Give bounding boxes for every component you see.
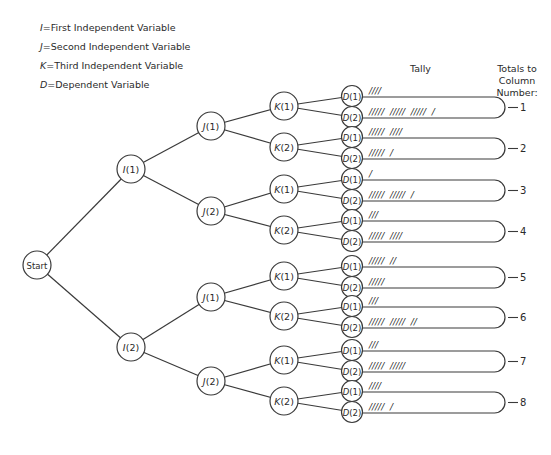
node-d: D(1) xyxy=(342,86,363,107)
tree-diagram: 1///////// ///// ///// /2///// /////////… xyxy=(0,0,551,455)
svg-text:K(1): K(1) xyxy=(274,101,294,112)
tally-d2: ///// ///// / xyxy=(368,190,415,200)
node-j: J(2) xyxy=(197,367,225,395)
tally-d2: ///// ///// // xyxy=(368,317,418,327)
svg-text:K(1): K(1) xyxy=(274,184,294,195)
node-k: K(2) xyxy=(270,216,298,244)
svg-text:K(1): K(1) xyxy=(274,355,294,366)
svg-text:D(1): D(1) xyxy=(343,133,362,143)
node-k: K(2) xyxy=(270,302,298,330)
tally-loop-7: 7//////// ///// xyxy=(362,340,526,372)
column-number: 6 xyxy=(520,312,526,323)
tally-d2: ///// ///// xyxy=(368,361,406,371)
svg-text:D(1): D(1) xyxy=(343,302,362,312)
svg-text:D(2): D(2) xyxy=(343,323,362,333)
svg-text:K(2): K(2) xyxy=(274,225,294,236)
tally-loop-2: 2///// ///////// / xyxy=(362,127,526,159)
node-j: J(1) xyxy=(197,283,225,311)
svg-text:D(1): D(1) xyxy=(343,346,362,356)
tally-d1: /// xyxy=(368,210,379,220)
svg-text:D(1): D(1) xyxy=(343,92,362,102)
node-d: D(2) xyxy=(342,402,363,423)
node-d: D(2) xyxy=(342,231,363,252)
column-number: 4 xyxy=(520,226,526,237)
svg-text:D(1): D(1) xyxy=(343,216,362,226)
column-number: 7 xyxy=(520,356,526,367)
tally-d2: ///// //// xyxy=(368,231,403,241)
column-number: 5 xyxy=(520,272,526,283)
node-k: K(2) xyxy=(270,133,298,161)
node-k: K(1) xyxy=(270,175,298,203)
svg-text:K(2): K(2) xyxy=(274,396,294,407)
node-d: D(2) xyxy=(342,317,363,338)
svg-text:J(1): J(1) xyxy=(201,121,219,132)
svg-text:D(2): D(2) xyxy=(343,154,362,164)
svg-text:D(2): D(2) xyxy=(343,408,362,418)
node-d: D(2) xyxy=(342,107,363,128)
column-number: 2 xyxy=(520,143,526,154)
start-node: Start xyxy=(23,251,51,279)
node-d: D(1) xyxy=(342,296,363,317)
node-d: D(2) xyxy=(342,190,363,211)
svg-text:D(2): D(2) xyxy=(343,283,362,293)
column-number: 1 xyxy=(520,102,526,113)
tally-loop-6: 6//////// ///// // xyxy=(362,296,526,328)
svg-text:D(1): D(1) xyxy=(343,175,362,185)
tally-d2: ///// xyxy=(368,277,385,287)
node-d: D(2) xyxy=(342,148,363,169)
column-number: 3 xyxy=(520,185,526,196)
svg-text:J(1): J(1) xyxy=(201,292,219,303)
node-k: K(2) xyxy=(270,387,298,415)
svg-text:D(1): D(1) xyxy=(343,262,362,272)
node-k: K(1) xyxy=(270,262,298,290)
node-d: D(1) xyxy=(342,210,363,231)
tally-d1: / xyxy=(368,169,373,179)
svg-text:K(2): K(2) xyxy=(274,142,294,153)
svg-text:K(2): K(2) xyxy=(274,311,294,322)
svg-text:D(1): D(1) xyxy=(343,387,362,397)
svg-text:D(2): D(2) xyxy=(343,237,362,247)
node-d: D(2) xyxy=(342,277,363,298)
tally-d2: ///// / xyxy=(368,402,394,412)
svg-text:D(2): D(2) xyxy=(343,196,362,206)
tally-d1: ///// //// xyxy=(368,127,403,137)
tally-d1: /// xyxy=(368,340,379,350)
node-d: D(1) xyxy=(342,169,363,190)
svg-text:K(1): K(1) xyxy=(274,271,294,282)
svg-text:I(1): I(1) xyxy=(123,164,139,175)
node-d: D(1) xyxy=(342,127,363,148)
tally-loop-3: 3////// ///// / xyxy=(362,169,526,201)
node-j: J(2) xyxy=(197,197,225,225)
tally-loop-5: 5///// /////// xyxy=(362,256,526,288)
column-number: 8 xyxy=(520,397,526,408)
tally-loop-1: 1///////// ///// ///// / xyxy=(362,86,526,118)
node-j: J(1) xyxy=(197,112,225,140)
tally-loop-4: 4//////// //// xyxy=(362,210,526,242)
node-k: K(1) xyxy=(270,346,298,374)
svg-text:J(2): J(2) xyxy=(201,376,219,387)
tally-d1: /// xyxy=(368,296,379,306)
node-d: D(1) xyxy=(342,340,363,361)
node-i1: I(1) xyxy=(117,155,145,183)
svg-text:I(2): I(2) xyxy=(123,342,139,353)
node-d: D(2) xyxy=(342,361,363,382)
node-k: K(1) xyxy=(270,92,298,120)
node-d: D(1) xyxy=(342,256,363,277)
node-d: D(1) xyxy=(342,381,363,402)
tally-d1: ///// // xyxy=(368,256,397,266)
tally-d2: ///// ///// ///// / xyxy=(368,107,436,117)
svg-text:J(2): J(2) xyxy=(201,206,219,217)
svg-text:D(2): D(2) xyxy=(343,367,362,377)
svg-text:Start: Start xyxy=(27,261,48,271)
tally-d2: ///// / xyxy=(368,148,394,158)
tally-loop-8: 8///////// / xyxy=(362,381,526,413)
svg-text:D(2): D(2) xyxy=(343,113,362,123)
node-i2: I(2) xyxy=(117,333,145,361)
tally-d1: //// xyxy=(368,381,382,391)
tally-d1: //// xyxy=(368,86,382,96)
